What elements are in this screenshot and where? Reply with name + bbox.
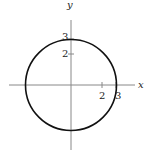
y-tick-2-label: 2 xyxy=(62,48,68,59)
circle-graph: y x 3 2 2 3 xyxy=(0,0,156,154)
x-tick-2-label: 2 xyxy=(99,90,105,101)
x-axis-label: x xyxy=(138,79,144,90)
y-tick-3-label: 3 xyxy=(62,31,68,42)
y-axis-label: y xyxy=(66,0,73,10)
x-tick-3-label: 3 xyxy=(115,90,121,101)
